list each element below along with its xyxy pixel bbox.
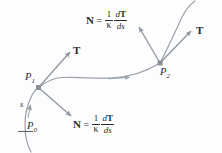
point-marker-p2 [158,61,163,66]
equation-top-deriv-denominator: ds [115,22,126,31]
normal-vector-p2 [139,27,160,63]
tangent-vector-p1 [39,52,71,88]
label-point-p2: P2 [160,67,170,80]
equation-top-lhs: N [86,15,94,26]
equation-top-equals: = [96,16,102,26]
equation-bottom-derivative: dT ds [101,114,115,135]
equation-normal-bottom: N = 1 κ dT ds [73,114,115,135]
equation-bottom-coef-numerator: 1 [92,114,100,123]
equation-bottom-equals: = [83,120,89,130]
equation-top-deriv-numerator: dT [114,10,128,19]
equation-top-coef-denominator: κ [105,21,113,31]
equation-top-coef-numerator: 1 [105,10,113,19]
label-point-p0: P0 [27,121,37,134]
label-tangent-left: T [73,45,80,56]
equation-normal-top: N = 1 κ dT ds [86,10,128,31]
equation-bottom-lhs: N [73,119,81,130]
normal-vector-p1 [39,88,72,117]
equation-top-derivative: dT ds [114,10,128,31]
label-point-p1: P1 [25,72,35,85]
label-arc-length: s [20,100,23,109]
tangent-vector-p2 [160,31,191,63]
equation-bottom-deriv-denominator: ds [102,126,113,135]
arc-length-arrow [28,105,31,118]
curve-diagram-figure: P0 P1 P2 s T T N = 1 κ dT ds N = 1 κ [0,0,222,153]
equation-bottom-coefficient: 1 κ [92,114,100,135]
equation-bottom-coef-denominator: κ [92,125,100,135]
point-marker-p1 [36,85,41,90]
label-tangent-right: T [196,25,203,36]
curve-lower-tail [26,134,32,152]
equation-bottom-deriv-numerator: dT [101,114,115,123]
equation-top-coefficient: 1 κ [105,10,113,31]
